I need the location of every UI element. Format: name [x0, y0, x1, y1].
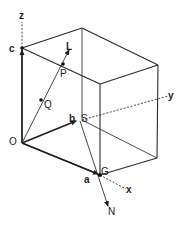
- label-l: L: [66, 41, 72, 52]
- unit-cell-diagram: z y x c O L P Q b S G a N: [0, 0, 184, 227]
- box-edges: [22, 28, 158, 175]
- label-c: c: [9, 43, 15, 54]
- y-axis: [82, 96, 168, 120]
- vector-ob: [22, 121, 76, 143]
- point-p: [61, 62, 65, 66]
- label-b: b: [69, 113, 75, 124]
- label-s: S: [81, 113, 88, 124]
- label-g: G: [101, 166, 109, 177]
- label-o: O: [9, 136, 17, 147]
- label-p: P: [60, 68, 67, 79]
- label-z: z: [19, 10, 24, 21]
- label-a: a: [84, 174, 90, 185]
- label-q: Q: [44, 99, 52, 110]
- label-n: N: [108, 206, 115, 217]
- line-sn: [80, 121, 108, 206]
- vector-oa: [22, 143, 98, 174]
- point-c: [20, 46, 24, 50]
- x-axis: [100, 175, 126, 189]
- label-x: x: [126, 184, 132, 195]
- point-q: [39, 98, 43, 102]
- label-y: y: [168, 90, 174, 101]
